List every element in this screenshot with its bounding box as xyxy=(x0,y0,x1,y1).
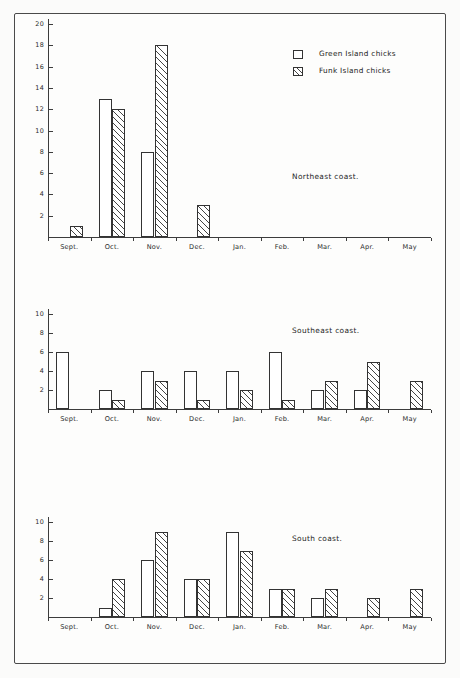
bar xyxy=(141,152,154,237)
bar xyxy=(141,560,154,617)
bar xyxy=(367,598,380,617)
x-axis-tick-label: Nov. xyxy=(134,623,174,631)
x-axis-tick xyxy=(431,618,432,621)
panel-caption: Northeast coast. xyxy=(292,172,359,181)
y-axis-tick xyxy=(49,371,53,372)
y-axis-tick-label: 8 xyxy=(24,537,44,545)
x-axis-tick xyxy=(346,410,347,413)
x-axis-tick xyxy=(346,618,347,621)
bar xyxy=(70,226,83,237)
bar xyxy=(354,390,367,409)
y-axis-tick xyxy=(49,24,53,25)
panel-caption: South coast. xyxy=(292,534,342,543)
y-axis-tick xyxy=(49,67,53,68)
y-axis-tick-label: 14 xyxy=(24,84,44,92)
x-axis-tick xyxy=(261,238,262,241)
y-axis-tick-label: 10 xyxy=(24,518,44,526)
y-axis xyxy=(48,517,49,618)
y-axis-tick xyxy=(49,173,53,174)
x-axis-tick xyxy=(218,618,219,621)
x-axis-tick-label: Oct. xyxy=(92,623,132,631)
x-axis-tick xyxy=(133,410,134,413)
y-axis-tick-label: 2 xyxy=(24,386,44,394)
x-axis-tick xyxy=(261,618,262,621)
y-axis-tick xyxy=(49,333,53,334)
y-axis xyxy=(48,19,49,238)
bar xyxy=(99,390,112,409)
y-axis-tick xyxy=(49,390,53,391)
bar xyxy=(226,532,239,618)
x-axis-tick-label: Dec. xyxy=(177,623,217,631)
x-axis-tick-label: Feb. xyxy=(262,243,302,251)
y-axis-tick-label: 6 xyxy=(24,169,44,177)
y-axis-tick-label: 10 xyxy=(24,127,44,135)
y-axis-tick xyxy=(49,314,53,315)
y-axis-tick-label: 6 xyxy=(24,348,44,356)
x-axis-tick-label: Mar. xyxy=(305,623,345,631)
bar xyxy=(282,400,295,410)
x-axis-tick-label: Sept. xyxy=(49,415,89,423)
x-axis-tick-label: Sept. xyxy=(49,243,89,251)
y-axis-tick-label: 2 xyxy=(24,212,44,220)
bar xyxy=(112,109,125,237)
y-axis-tick xyxy=(49,352,53,353)
x-axis-tick xyxy=(176,410,177,413)
bar xyxy=(197,400,210,410)
x-axis-tick xyxy=(218,238,219,241)
bar xyxy=(112,400,125,410)
x-axis-tick xyxy=(48,410,49,413)
open-square-icon xyxy=(293,50,303,59)
bar xyxy=(155,45,168,237)
y-axis-tick-label: 4 xyxy=(24,575,44,583)
y-axis-tick xyxy=(49,45,53,46)
bar xyxy=(99,99,112,237)
x-axis-tick-label: Feb. xyxy=(262,415,302,423)
bar xyxy=(155,532,168,618)
x-axis-tick xyxy=(48,618,49,621)
x-axis-tick-label: Apr. xyxy=(347,243,387,251)
x-axis-tick xyxy=(218,410,219,413)
chart-page: 2468101214161820Sept.Oct.Nov.Dec.Jan.Feb… xyxy=(0,0,460,678)
x-axis-tick-label: Sept. xyxy=(49,623,89,631)
bar xyxy=(282,589,295,618)
y-axis-tick-label: 6 xyxy=(24,556,44,564)
bar xyxy=(155,381,168,410)
x-axis-tick-label: Apr. xyxy=(347,415,387,423)
y-axis-tick-label: 4 xyxy=(24,367,44,375)
x-axis-tick xyxy=(133,238,134,241)
hatched-square-icon xyxy=(293,67,303,76)
x-axis-tick-label: Apr. xyxy=(347,623,387,631)
x-axis-tick xyxy=(48,238,49,241)
bar xyxy=(240,390,253,409)
x-axis-tick xyxy=(261,410,262,413)
x-axis-tick-label: Dec. xyxy=(177,243,217,251)
bar xyxy=(325,381,338,410)
x-axis-tick xyxy=(303,410,304,413)
x-axis-tick-label: Jan. xyxy=(220,623,260,631)
page-frame: 2468101214161820Sept.Oct.Nov.Dec.Jan.Feb… xyxy=(14,13,446,664)
y-axis-tick xyxy=(49,194,53,195)
x-axis-tick-label: Oct. xyxy=(92,243,132,251)
x-axis-tick xyxy=(388,618,389,621)
bar xyxy=(226,371,239,409)
x-axis-tick-label: May xyxy=(390,623,430,631)
y-axis-tick xyxy=(49,216,53,217)
x-axis-tick-label: May xyxy=(390,243,430,251)
x-axis xyxy=(48,409,431,410)
legend-label-green: Green Island chicks xyxy=(319,49,396,58)
y-axis-tick xyxy=(49,579,53,580)
bar xyxy=(184,579,197,617)
x-axis-tick xyxy=(176,618,177,621)
x-axis-tick xyxy=(303,618,304,621)
x-axis-tick-label: Mar. xyxy=(305,243,345,251)
x-axis-tick-label: Dec. xyxy=(177,415,217,423)
bar xyxy=(184,371,197,409)
y-axis-tick xyxy=(49,541,53,542)
x-axis-tick xyxy=(91,238,92,241)
y-axis xyxy=(48,309,49,410)
y-axis-tick xyxy=(49,109,53,110)
x-axis xyxy=(48,617,431,618)
bar xyxy=(325,589,338,618)
y-axis-tick xyxy=(49,152,53,153)
y-axis-tick-label: 2 xyxy=(24,594,44,602)
